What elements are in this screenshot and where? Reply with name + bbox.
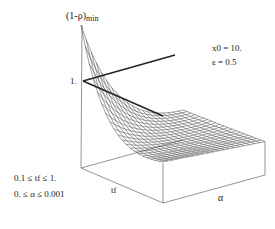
surface-plot: (1-ρ)min 1. x0 = 10. ε = 0.5 0.1 ≤ tf ≤ … xyxy=(0,0,275,229)
y-axis-label-alpha: α xyxy=(218,193,223,203)
z-axis-label-subscript: min xyxy=(86,14,98,23)
z-axis-label: (1-ρ)min xyxy=(66,11,98,23)
x-axis-label-tf: tf xyxy=(111,186,117,195)
z-axis-label-text: (1-ρ) xyxy=(66,10,86,21)
z-tick-one: 1. xyxy=(70,77,77,86)
param-x0: x0 = 10. xyxy=(212,44,242,53)
upper-curve xyxy=(83,55,175,81)
range-tf: 0.1 ≤ tf ≤ 1. xyxy=(14,174,56,183)
range-alpha: 0. ≤ α ≤ 0.001 xyxy=(14,190,65,199)
param-epsilon: ε = 0.5 xyxy=(212,58,237,67)
